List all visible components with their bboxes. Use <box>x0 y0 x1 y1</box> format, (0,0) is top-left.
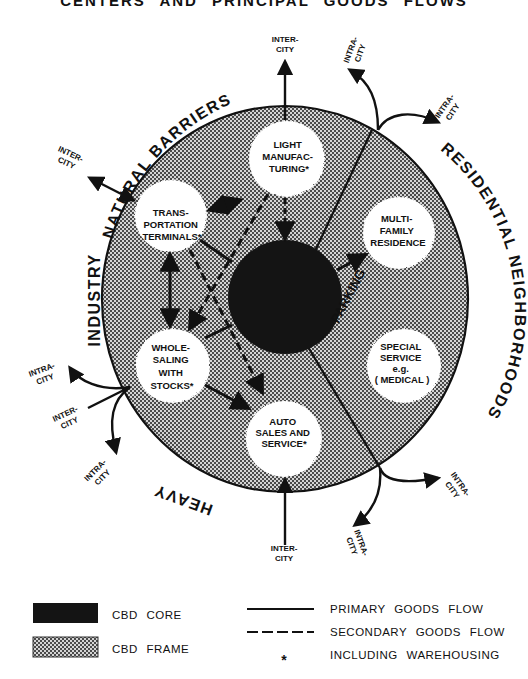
legend-secondary-label: SECONDARY GOODS FLOW <box>330 626 505 638</box>
cbd-core-area <box>228 240 342 354</box>
legend-asterisk-label: INCLUDING WAREHOUSING <box>330 649 500 661</box>
legend-core-label: CBD CORE <box>112 609 182 621</box>
cbd-goods-flow-diagram: CENTERS AND PRINCIPAL GOODS FLOWS <box>0 0 528 679</box>
label-bottom-right-intracity-2: INTRA-CITY <box>343 529 370 561</box>
label-top-intercity: INTER-CITY <box>272 35 299 54</box>
label-heavy: HEAVY <box>151 482 215 519</box>
label-top-right-intracity: INTRA-CITY <box>342 35 369 67</box>
legend-primary-label: PRIMARY GOODS FLOW <box>330 603 483 615</box>
legend-asterisk-icon: * <box>281 652 287 668</box>
label-left-intercity-2: INTER-CITY <box>51 404 84 433</box>
label-bottom-right-intracity: INTRA-CITY <box>441 471 472 504</box>
label-industry: INDUSTRY <box>86 253 103 346</box>
diagram-title: CENTERS AND PRINCIPAL GOODS FLOWS <box>60 0 468 9</box>
label-left-intracity: INTRA-CITY <box>28 361 60 388</box>
legend-swatch-frame <box>33 637 98 657</box>
label-bottom-left-intracity: INTRA-CITY <box>83 457 116 490</box>
legend-swatch-core <box>33 603 98 623</box>
label-left-intercity: INTER-CITY <box>53 144 86 173</box>
legend: CBD CORE CBD FRAME PRIMARY GOODS FLOW SE… <box>33 603 505 668</box>
label-bottom-intercity: INTER-CITY <box>271 544 298 563</box>
legend-frame-label: CBD FRAME <box>112 643 189 655</box>
